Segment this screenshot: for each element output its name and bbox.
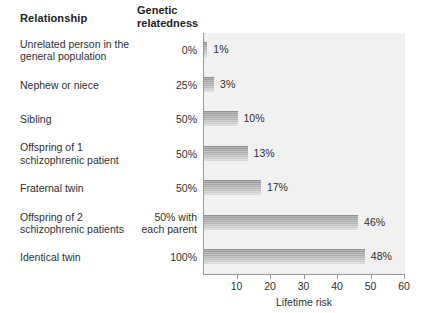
bar [204, 215, 358, 230]
genetic-relatedness-line1: 50% with [110, 211, 197, 224]
bar-value-label: 3% [220, 77, 235, 92]
x-axis-tick-label: 20 [258, 280, 282, 292]
table-row: Offspring of 1schizophrenic patient50% [0, 137, 200, 172]
x-axis-tick [304, 275, 305, 279]
x-axis-tick [337, 275, 338, 279]
genetic-relatedness-line1: 100% [110, 251, 197, 264]
genetic-relatedness-value: 25% [110, 79, 197, 92]
header-genetic-relatedness: Genetic relatedness [137, 4, 199, 29]
bar-value-label: 46% [364, 215, 385, 230]
bar-slot: 10% [203, 102, 405, 137]
bar [204, 180, 261, 195]
table-row: Unrelated person in thegeneral populatio… [0, 33, 200, 68]
bar-slot: 46% [203, 206, 405, 241]
bar [204, 111, 238, 126]
genetic-relatedness-value: 50% [110, 182, 197, 195]
bar-value-label: 17% [267, 180, 288, 195]
bar-slot: 1% [203, 33, 405, 68]
x-axis-tick-label: 50 [359, 280, 383, 292]
relationship-table: Unrelated person in thegeneral populatio… [0, 33, 200, 275]
x-axis-tick [237, 275, 238, 279]
genetic-relatedness-value: 50% witheach parent [110, 211, 197, 236]
bar-slot: 13% [203, 137, 405, 172]
bar-value-label: 48% [371, 249, 392, 264]
genetic-relatedness-line1: 50% [110, 113, 197, 126]
bar-slot: 3% [203, 68, 405, 103]
genetic-relatedness-line1: 25% [110, 79, 197, 92]
header-genetic-line2: relatedness [137, 17, 199, 30]
bar [204, 146, 248, 161]
table-row: Fraternal twin50% [0, 171, 200, 206]
chart-plot-area: 1%3%10%13%17%46%48% [203, 33, 405, 275]
genetic-relatedness-value: 0% [110, 44, 197, 57]
bar-slot: 48% [203, 240, 405, 275]
genetic-relatedness-line1: 50% [110, 148, 197, 161]
bar-value-label: 13% [254, 146, 275, 161]
genetic-relatedness-value: 100% [110, 251, 197, 264]
bar-value-label: 1% [213, 42, 228, 57]
x-axis-tick-label: 30 [292, 280, 316, 292]
genetic-relatedness-value: 50% [110, 113, 197, 126]
table-row: Offspring of 2schizophrenic patients50% … [0, 206, 200, 241]
x-axis-title: Lifetime risk [203, 296, 405, 308]
genetic-relatedness-value: 50% [110, 148, 197, 161]
x-axis-tick [270, 275, 271, 279]
table-row: Identical twin100% [0, 240, 200, 275]
x-axis-tick-label: 60 [392, 280, 416, 292]
bar [204, 77, 214, 92]
genetic-relatedness-line2: each parent [110, 223, 197, 236]
header-relationship: Relationship [20, 12, 87, 24]
table-row: Nephew or niece25% [0, 68, 200, 103]
header-genetic-line1: Genetic [137, 4, 199, 17]
x-axis-tick [404, 275, 405, 279]
bar-value-label: 10% [244, 111, 265, 126]
bar-slot: 17% [203, 171, 405, 206]
genetic-relatedness-line1: 50% [110, 182, 197, 195]
x-axis-tick-label: 10 [225, 280, 249, 292]
table-row: Sibling50% [0, 102, 200, 137]
genetic-relatedness-line1: 0% [110, 44, 197, 57]
bar [204, 249, 365, 264]
bar [204, 42, 207, 57]
x-axis-tick-label: 40 [325, 280, 349, 292]
x-axis-tick [371, 275, 372, 279]
